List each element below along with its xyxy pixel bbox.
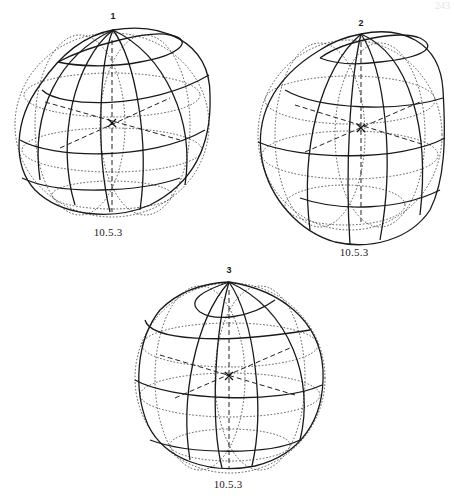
figure-3-caption: 10.5.3 (214, 478, 243, 490)
figure-3-globe-drawing (0, 0, 454, 496)
